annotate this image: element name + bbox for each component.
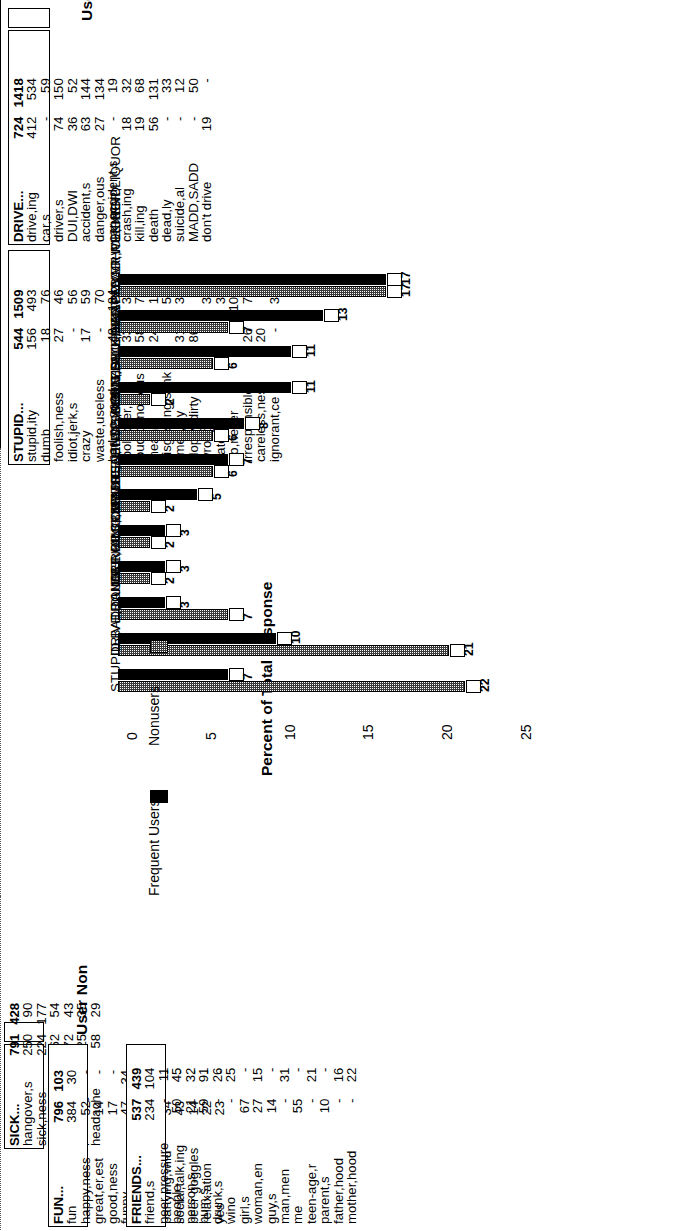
table-cell-user: 18 — [39, 328, 52, 359]
chart-bar-value-label: 2 — [151, 536, 166, 549]
table-cell-user: 224 — [35, 1034, 48, 1065]
table-cell-label: SICK... — [8, 1065, 21, 1146]
table-cell-non: 16 — [332, 1068, 345, 1099]
table-cell-user: 56 — [147, 117, 160, 148]
table-cell-non: - — [238, 1068, 251, 1099]
table-cell-user: - — [39, 117, 52, 148]
chart-bar-value: 7 — [241, 458, 255, 465]
table-cell-user: - — [224, 1099, 237, 1130]
table-stupid: STUPID...5441509stupid,ity156493dumb1876… — [8, 250, 50, 465]
table-row: hangover,s25090 — [21, 1003, 34, 1146]
table-cell-non: 26 — [211, 1068, 224, 1099]
table-cell-non: - — [106, 1070, 119, 1101]
table-row: teen-age,r-21 — [305, 1068, 318, 1224]
table-row: peer pressure-11 — [157, 1068, 170, 1224]
table-fun: FUN...796103fun38430happy,ness52-great,e… — [48, 1044, 88, 1227]
chart-bar-value: 22 — [478, 678, 492, 692]
chart-bar-value: 7 — [241, 613, 255, 620]
table-cell-label: death — [147, 148, 160, 242]
table-cell-user: 724 — [12, 117, 25, 148]
table-cell-non: 33 — [160, 78, 173, 116]
chart-gridline-0 — [0, 0, 1, 448]
table-cell-non: 131 — [147, 78, 160, 116]
table-cell-user: - — [211, 1099, 224, 1130]
chart-bar-value: 21 — [462, 642, 476, 656]
table-cell-user: 27 — [93, 117, 106, 148]
table-cell-user: 10 — [318, 1099, 331, 1130]
chart-bar-frequent-users — [118, 489, 197, 500]
table-row: parent,s10- — [318, 1068, 331, 1224]
chart-bar-value: 8 — [257, 422, 271, 429]
chart-bar-frequent-users — [118, 669, 228, 680]
chart-bar-value: 6 — [226, 362, 240, 369]
table-cell-user: - — [278, 1099, 291, 1130]
chart-bar-value: 2 — [163, 577, 177, 584]
table-cell-non: 68 — [133, 78, 146, 116]
table-cell-label: suicide,al — [173, 148, 186, 242]
table-row: good,ness17- — [106, 1070, 119, 1224]
table-cell-non: 35 — [75, 1003, 88, 1034]
chart-bar-value-label: 6 — [214, 465, 229, 478]
table-cell-label: father,hood — [332, 1130, 345, 1224]
table-row: happy,ness52- — [79, 1070, 92, 1224]
table-cell-label: good,ness — [106, 1132, 119, 1224]
table-cell-user: - — [173, 117, 186, 148]
table-cell-non: 428 — [8, 1003, 21, 1034]
table-cell-label: careless,ness — [254, 359, 267, 462]
table-cell-label: irresponsible — [241, 359, 254, 462]
table-cell-non: 32 — [184, 1068, 197, 1099]
table-cell-non: 30 — [65, 1070, 78, 1101]
table-cell-user: - — [345, 1099, 358, 1130]
table-row: FUN...796103 — [52, 1070, 65, 1224]
chart-bar-value: 2 — [163, 506, 177, 513]
table-cell-label: danger,ous — [93, 148, 106, 242]
table-cell-non: - — [92, 1070, 105, 1101]
table-cell-label: smell,s,y — [173, 359, 186, 462]
chart-bar-nonusers — [118, 358, 213, 369]
table-cell-non: 493 — [25, 289, 38, 327]
chart-ytick-15: 15 — [360, 724, 376, 740]
table-cell-label: STUPID... — [12, 359, 25, 462]
chart-gridline-5 — [0, 448, 1, 896]
table-cell-label: idiot,jerk,s — [66, 359, 79, 462]
chart-bar-nonusers — [118, 609, 228, 620]
user-non-header: User Non — [8, 8, 50, 28]
chart-bar-frequent-users — [118, 561, 165, 572]
table-cell-label: kill,ing — [133, 148, 146, 242]
table-cell-label: great,er,est — [92, 1132, 105, 1224]
chart-ytick-20: 20 — [439, 724, 455, 740]
chart-bar-value-label: 7 — [229, 668, 244, 681]
chart-ytick-25: 25 — [518, 724, 534, 740]
table-cell-non: 144 — [79, 78, 92, 116]
table-cell-label: disgusting,stink — [160, 359, 173, 462]
table-cell-non: 31 — [278, 1068, 291, 1099]
chart-bar-value: 6 — [226, 470, 240, 477]
table-friends-inner: FRIENDS...537439friend,s234104peer press… — [130, 1068, 359, 1224]
table-row: dumb1876 — [39, 289, 52, 462]
chart-bar-value: 3 — [178, 601, 192, 608]
table-cell-user: - — [305, 1099, 318, 1130]
table-cell-user: 50 — [170, 1099, 183, 1130]
table-row: don't drive19- — [200, 78, 213, 242]
table-cell-label: mother,hood — [345, 1130, 358, 1224]
table-cell-label: drive,ing — [25, 148, 38, 242]
table-row: danger,ous27134 — [93, 78, 106, 242]
table-cell-label: accident,s — [79, 148, 92, 242]
table-cell-label: DRIVE... — [12, 148, 25, 242]
table-cell-label: guy,s — [265, 1130, 278, 1224]
table-row: idiot,jerk,s-56 — [66, 289, 79, 462]
table-cell-label: wrong — [200, 359, 213, 462]
table-cell-non: 59 — [39, 78, 52, 116]
table-cell-non: 21 — [305, 1068, 318, 1099]
chart-bar-frequent-users — [118, 597, 165, 608]
table-cell-label: FUN... — [52, 1132, 65, 1224]
table-cell-user: 27 — [251, 1099, 264, 1130]
table-cell-non: 43 — [62, 1003, 75, 1034]
chart-bar-value-label: 3 — [166, 596, 181, 609]
table-cell-user: 27 — [52, 328, 65, 359]
chart-bar-value: 3 — [178, 565, 192, 572]
chart-bar-value-label: 7 — [229, 453, 244, 466]
chart-bar-nonusers — [118, 322, 228, 333]
chart-bar-value-label: 13 — [324, 309, 339, 322]
table-cell-non: - — [79, 1070, 92, 1101]
